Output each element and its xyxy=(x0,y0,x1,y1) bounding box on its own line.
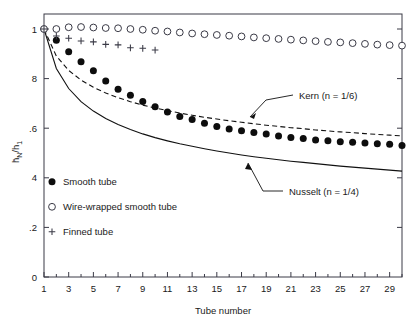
x-tick-label-1: 3 xyxy=(66,283,71,294)
marker-filled-circle xyxy=(386,141,393,148)
marker-open-circle xyxy=(325,38,332,45)
x-tick-label-0: 1 xyxy=(41,283,46,294)
marker-filled-circle xyxy=(349,139,356,146)
y-tick-label-3: .6 xyxy=(29,123,37,134)
annotation-kern: Kern (n = 1/6) xyxy=(299,90,357,101)
marker-open-circle xyxy=(127,26,134,33)
x-tick-label-9: 19 xyxy=(261,283,272,294)
marker-filled-circle xyxy=(139,98,146,105)
marker-filled-circle xyxy=(78,58,85,65)
marker-filled-circle xyxy=(238,127,245,134)
marker-filled-circle xyxy=(102,78,109,85)
marker-open-circle xyxy=(201,31,208,38)
marker-open-circle xyxy=(263,35,270,42)
x-tick-label-14: 29 xyxy=(384,283,395,294)
legend-label: Wire-wrapped smooth tube xyxy=(63,201,177,212)
marker-open-circle xyxy=(349,40,356,47)
y-axis-denom-sub: 1 xyxy=(16,141,23,145)
marker-filled-circle xyxy=(250,129,257,136)
marker-open-circle xyxy=(238,33,245,40)
marker-open-circle xyxy=(115,25,122,32)
marker-filled-circle xyxy=(361,140,368,147)
marker-filled-circle xyxy=(65,48,72,55)
x-tick-label-4: 9 xyxy=(140,283,145,294)
marker-filled-circle xyxy=(337,138,344,145)
marker-open-circle xyxy=(312,38,319,45)
x-tick-label-8: 17 xyxy=(236,283,247,294)
marker-open-circle xyxy=(337,39,344,46)
x-tick-label-12: 25 xyxy=(335,283,346,294)
x-axis-title: Tube number xyxy=(195,305,251,316)
legend-label: Smooth tube xyxy=(63,176,117,187)
marker-filled-circle xyxy=(90,67,97,74)
marker-filled-circle xyxy=(176,113,183,120)
x-tick-label-11: 23 xyxy=(310,283,321,294)
marker-filled-circle xyxy=(201,120,208,127)
marker-open-circle xyxy=(287,36,294,43)
legend-label: Finned tube xyxy=(63,226,113,237)
marker-open-circle xyxy=(78,24,85,31)
marker-open-circle xyxy=(102,25,109,32)
marker-filled-circle xyxy=(263,130,270,137)
marker-filled-circle xyxy=(152,103,159,110)
marker-filled-circle xyxy=(226,125,233,132)
marker-open-circle xyxy=(399,42,406,49)
tube-number-heat-transfer-chart: 0.24.681 1357911131517192123252729 Kern … xyxy=(0,0,416,327)
marker-open-circle xyxy=(139,26,146,33)
marker-filled-circle xyxy=(275,132,282,139)
marker-filled-circle xyxy=(115,86,122,93)
y-tick-label-2: 4 xyxy=(32,172,37,183)
y-tick-label-1: .2 xyxy=(29,222,37,233)
x-tick-label-3: 7 xyxy=(115,283,120,294)
marker-filled-circle xyxy=(399,142,406,149)
x-tick-label-6: 13 xyxy=(187,283,198,294)
y-tick-label-4: 8 xyxy=(32,73,37,84)
marker-open-circle xyxy=(164,28,171,35)
x-tick-label-10: 21 xyxy=(286,283,297,294)
marker-open-circle xyxy=(250,34,257,41)
y-tick-label-5: 1 xyxy=(32,24,37,35)
marker-open-circle xyxy=(374,41,381,48)
marker-filled-circle xyxy=(324,137,331,144)
marker-open-circle xyxy=(90,24,97,31)
x-tick-label-7: 15 xyxy=(212,283,223,294)
y-tick-label-0: 0 xyxy=(32,272,37,283)
annotation-nusselt: Nusselt (n = 1/4) xyxy=(289,186,359,197)
chart-background xyxy=(0,0,416,327)
marker-filled-circle xyxy=(164,109,171,116)
legend-item-wire-wrapped-smooth-tube: Wire-wrapped smooth tube xyxy=(49,201,177,212)
marker-open-circle xyxy=(226,32,233,39)
chart-figure: 0.24.681 1357911131517192123252729 Kern … xyxy=(0,0,416,327)
marker-open-circle xyxy=(213,32,220,39)
marker-open-circle xyxy=(176,29,183,36)
y-axis-slash: /h xyxy=(10,145,21,153)
marker-open-circle xyxy=(386,42,393,49)
marker-filled-circle xyxy=(189,116,196,123)
x-tick-label-2: 5 xyxy=(91,283,96,294)
marker-filled-circle xyxy=(312,137,319,144)
marker-filled-circle xyxy=(374,140,381,147)
marker-open-circle xyxy=(53,26,60,33)
marker-open-circle xyxy=(49,203,56,210)
marker-filled-circle xyxy=(127,92,134,99)
marker-filled-circle xyxy=(49,178,56,185)
marker-filled-circle xyxy=(287,134,294,141)
marker-open-circle xyxy=(65,24,72,31)
marker-filled-circle xyxy=(213,123,220,130)
x-tick-label-13: 27 xyxy=(360,283,371,294)
marker-open-circle xyxy=(152,27,159,34)
marker-open-circle xyxy=(300,37,307,44)
marker-open-circle xyxy=(362,40,369,47)
marker-open-circle xyxy=(189,30,196,37)
marker-filled-circle xyxy=(300,135,307,142)
x-tick-label-5: 11 xyxy=(163,283,173,294)
marker-open-circle xyxy=(275,36,282,43)
